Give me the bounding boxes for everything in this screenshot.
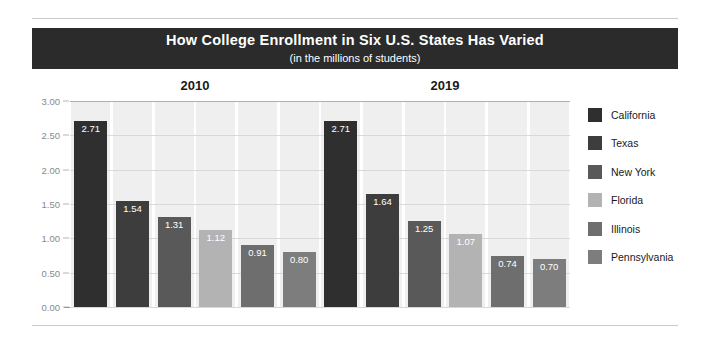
y-axis-tick-label: 0.00 <box>26 302 60 313</box>
y-axis-tick-label: 0.50 <box>26 267 60 278</box>
bar-illinois-2019[interactable]: 0.74 <box>491 256 524 307</box>
bar-value-label: 1.64 <box>366 197 399 207</box>
y-axis-tick-label: 1.50 <box>26 199 60 210</box>
bar-new-york-2019[interactable]: 1.25 <box>408 221 441 307</box>
legend-item-pennsylvania[interactable]: Pennsylvania <box>588 249 703 266</box>
legend-item-label: Texas <box>611 137 638 149</box>
y-axis-tick-label: 2.50 <box>26 130 60 141</box>
bar-new-york-2010[interactable]: 1.31 <box>158 217 191 307</box>
legend-swatch-icon <box>588 136 602 150</box>
y-axis-tick-mark <box>63 135 69 136</box>
gridline <box>70 307 570 308</box>
gridline <box>70 135 570 136</box>
y-axis-tick-label: 3.00 <box>26 96 60 107</box>
legend-item-florida[interactable]: Florida <box>588 192 703 209</box>
bar-value-label: 2.71 <box>324 124 357 134</box>
group-label-2019: 2019 <box>405 78 485 93</box>
legend-item-label: California <box>611 109 655 121</box>
bar-florida-2019[interactable]: 1.07 <box>449 234 482 307</box>
y-axis-tick-mark <box>63 204 69 205</box>
legend-item-new-york[interactable]: New York <box>588 163 703 180</box>
bar-value-label: 0.70 <box>533 262 566 272</box>
plot-area: 2.711.541.311.120.910.802.711.641.251.07… <box>70 101 570 307</box>
group-label-2010: 2010 <box>155 78 235 93</box>
bar-value-label: 1.12 <box>199 233 232 243</box>
bar-value-label: 1.31 <box>158 220 191 230</box>
y-axis-tick-label: 1.00 <box>26 233 60 244</box>
legend-item-label: New York <box>611 166 655 178</box>
bar-value-label: 1.54 <box>116 204 149 214</box>
legend-item-label: Illinois <box>611 223 640 235</box>
bar-california-2019[interactable]: 2.71 <box>324 121 357 307</box>
bar-value-label: 0.74 <box>491 259 524 269</box>
legend-swatch-icon <box>588 222 602 236</box>
gridline <box>70 101 570 102</box>
bar-florida-2010[interactable]: 1.12 <box>199 230 232 307</box>
bar-value-label: 1.07 <box>449 237 482 247</box>
bar-value-label: 2.71 <box>74 124 107 134</box>
bar-california-2010[interactable]: 2.71 <box>74 121 107 307</box>
y-axis-tick-mark <box>63 101 69 102</box>
bar-value-label: 1.25 <box>408 224 441 234</box>
y-axis-tick-mark <box>63 272 69 273</box>
legend-item-california[interactable]: California <box>588 106 703 123</box>
legend-swatch-icon <box>588 108 602 122</box>
bar-pennsylvania-2019[interactable]: 0.70 <box>533 259 566 307</box>
legend-item-label: Florida <box>611 194 643 206</box>
legend-swatch-icon <box>588 165 602 179</box>
gridline <box>70 170 570 171</box>
y-axis-tick-label: 2.00 <box>26 164 60 175</box>
bar-value-label: 0.91 <box>241 248 274 258</box>
bar-illinois-2010[interactable]: 0.91 <box>241 245 274 307</box>
legend-item-texas[interactable]: Texas <box>588 135 703 152</box>
bar-pennsylvania-2010[interactable]: 0.80 <box>283 252 316 307</box>
chart-legend: CaliforniaTexasNew YorkFloridaIllinoisPe… <box>588 106 703 278</box>
legend-swatch-icon <box>588 250 602 264</box>
y-axis-tick-mark <box>63 238 69 239</box>
legend-item-illinois[interactable]: Illinois <box>588 220 703 237</box>
y-axis-tick-mark <box>63 169 69 170</box>
bar-texas-2010[interactable]: 1.54 <box>116 201 149 307</box>
bar-texas-2019[interactable]: 1.64 <box>366 194 399 307</box>
bar-value-label: 0.80 <box>283 255 316 265</box>
legend-item-label: Pennsylvania <box>611 251 673 263</box>
chart-page: How College Enrollment in Six U.S. State… <box>0 0 708 337</box>
legend-swatch-icon <box>588 193 602 207</box>
